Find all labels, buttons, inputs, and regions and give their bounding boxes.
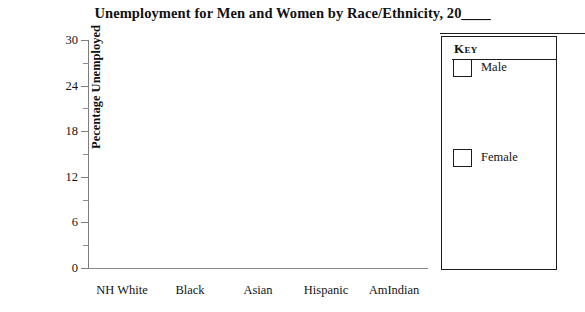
legend-key-box: Key MaleFemale: [441, 36, 557, 270]
x-axis-category-label: AmIndian: [360, 283, 428, 298]
y-axis-major-tick: [81, 131, 89, 132]
x-axis-category-label: Asian: [224, 283, 292, 298]
chart-title-year-blank: ____: [462, 5, 491, 21]
x-axis-category-label: NH White: [88, 283, 156, 298]
y-axis-minor-tick: [83, 200, 89, 201]
legend-swatch: [453, 149, 472, 167]
y-axis-tick-label: 30: [38, 34, 78, 46]
y-axis-major-tick: [81, 40, 89, 41]
y-axis-tick-label: 0: [38, 262, 78, 274]
y-axis-major-tick: [81, 177, 89, 178]
legend-label: Female: [481, 150, 518, 165]
y-axis-tick-label: 24: [38, 80, 78, 92]
legend-swatch: [453, 59, 472, 77]
x-axis-category-label: Hispanic: [292, 283, 360, 298]
x-axis-category-labels: NH WhiteBlackAsianHispanicAmIndian: [88, 283, 428, 301]
y-axis-tick-label: 18: [38, 125, 78, 137]
chart-title: Unemployment for Men and Women by Race/E…: [0, 5, 585, 22]
legend-title: Key: [454, 41, 478, 57]
y-axis-major-tick: [81, 268, 89, 269]
legend-label: Male: [481, 60, 507, 75]
y-axis-tick-label: 6: [38, 216, 78, 228]
y-axis-major-tick: [81, 86, 89, 87]
y-axis-tick-label: 12: [38, 171, 78, 183]
y-axis-major-tick: [81, 222, 89, 223]
y-axis-minor-tick: [83, 245, 89, 246]
key-top-rule: [440, 33, 585, 34]
x-axis-category-label: Black: [156, 283, 224, 298]
chart-title-text: Unemployment for Men and Women by Race/E…: [94, 5, 461, 21]
x-axis-line: [88, 268, 428, 269]
unemployment-worksheet-chart: Unemployment for Men and Women by Race/E…: [0, 0, 585, 312]
plot-area[interactable]: [88, 40, 428, 268]
y-axis-title: Pecentage Unemployed: [89, 7, 107, 167]
